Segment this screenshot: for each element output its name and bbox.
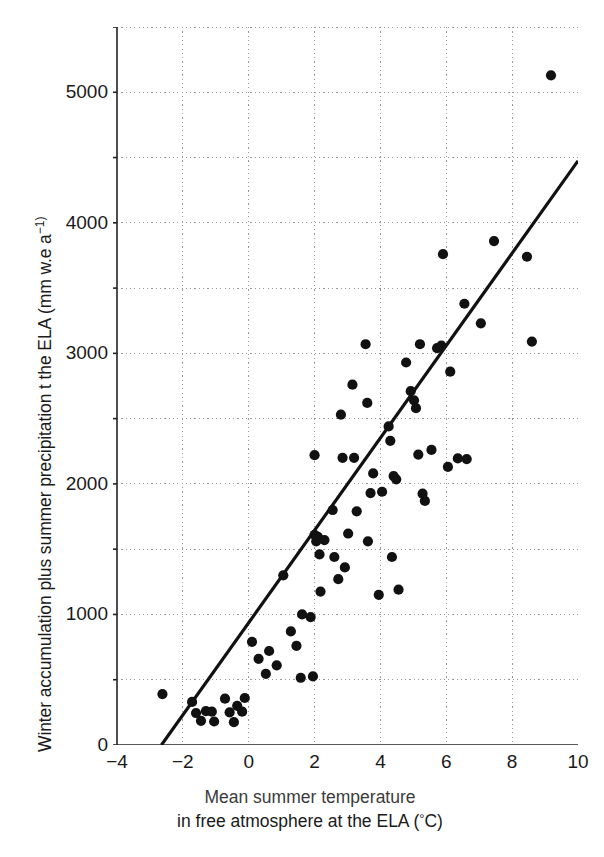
data-point — [286, 626, 296, 636]
x-axis-tick-label: 8 — [507, 752, 518, 771]
data-point — [337, 453, 347, 463]
data-point — [296, 673, 306, 683]
data-point — [247, 637, 257, 647]
data-point — [319, 535, 329, 545]
data-point — [209, 716, 219, 726]
plot-svg — [113, 27, 578, 745]
x-axis-tick-label: 0 — [243, 752, 254, 771]
x-axis-title: Mean summer temperature in free atmosphe… — [60, 786, 560, 833]
data-point — [340, 562, 350, 572]
data-point — [349, 453, 359, 463]
data-point — [522, 252, 532, 262]
data-point — [196, 716, 206, 726]
data-point — [527, 337, 537, 347]
data-point — [377, 487, 387, 497]
x-axis-title-line1: Mean summer temperature — [60, 786, 560, 810]
data-point — [157, 689, 167, 699]
data-point — [415, 339, 425, 349]
data-point — [187, 697, 197, 707]
y-axis-tick-label: 0 — [8, 735, 108, 754]
x-axis-tick-label: 4 — [375, 752, 386, 771]
y-axis-tick-label: 4000 — [8, 213, 108, 232]
x-axis-tick-labels: −4−20246810 — [113, 752, 578, 780]
data-point — [272, 660, 282, 670]
trendline — [161, 161, 578, 745]
x-axis-title-line2: in free atmosphere at the ELA (°C) — [60, 810, 560, 834]
data-point — [362, 398, 372, 408]
data-point — [411, 403, 421, 413]
data-point — [306, 612, 316, 622]
data-point — [291, 641, 301, 651]
data-point — [476, 318, 486, 328]
data-point — [489, 236, 499, 246]
data-point — [329, 552, 339, 562]
data-point — [391, 474, 401, 484]
data-point — [308, 671, 318, 681]
data-point — [363, 536, 373, 546]
data-point — [361, 339, 371, 349]
x-axis-tick-label: −4 — [106, 752, 128, 771]
data-point — [220, 694, 230, 704]
y-axis-tick-label: 2000 — [8, 474, 108, 493]
data-point — [406, 386, 416, 396]
data-point — [309, 450, 319, 460]
data-point — [314, 549, 324, 559]
data-point — [253, 654, 263, 664]
data-point — [240, 693, 250, 703]
data-point — [333, 574, 343, 584]
grid-lines — [117, 27, 578, 745]
x-axis-tick-label: 2 — [309, 752, 320, 771]
data-point — [436, 340, 446, 350]
data-point — [261, 669, 271, 679]
data-point — [368, 468, 378, 478]
y-axis-tick-label: 1000 — [8, 604, 108, 623]
data-point — [207, 707, 217, 717]
regression-line — [161, 161, 578, 745]
data-point — [420, 496, 430, 506]
data-point — [347, 380, 357, 390]
data-point — [336, 410, 346, 420]
data-point — [264, 646, 274, 656]
data-point — [365, 488, 375, 498]
data-point — [352, 506, 362, 516]
x-axis-tick-label: −2 — [172, 752, 194, 771]
plot-area — [113, 27, 578, 745]
data-point — [387, 552, 397, 562]
data-point — [315, 587, 325, 597]
data-point — [445, 367, 455, 377]
data-point — [462, 454, 472, 464]
y-axis-tick-labels: 010002000300040005000 — [0, 0, 108, 800]
data-point — [385, 436, 395, 446]
data-point — [393, 585, 403, 595]
y-axis-tick-label: 5000 — [8, 82, 108, 101]
data-points — [157, 70, 556, 727]
figure-scatter-plot: Winter accumulation plus summer precipit… — [0, 0, 604, 857]
data-point — [413, 449, 423, 459]
data-point — [237, 707, 247, 717]
data-point — [328, 505, 338, 515]
data-point — [401, 357, 411, 367]
data-point — [384, 421, 394, 431]
y-axis-tick-label: 3000 — [8, 343, 108, 362]
data-point — [453, 453, 463, 463]
data-point — [374, 590, 384, 600]
data-point — [546, 70, 556, 80]
data-point — [438, 249, 448, 259]
data-point — [278, 570, 288, 580]
x-axis-tick-label: 6 — [441, 752, 452, 771]
data-point — [229, 717, 239, 727]
data-point — [459, 299, 469, 309]
x-axis-tick-label: 10 — [567, 752, 588, 771]
data-point — [443, 462, 453, 472]
data-point — [343, 528, 353, 538]
data-point — [426, 445, 436, 455]
